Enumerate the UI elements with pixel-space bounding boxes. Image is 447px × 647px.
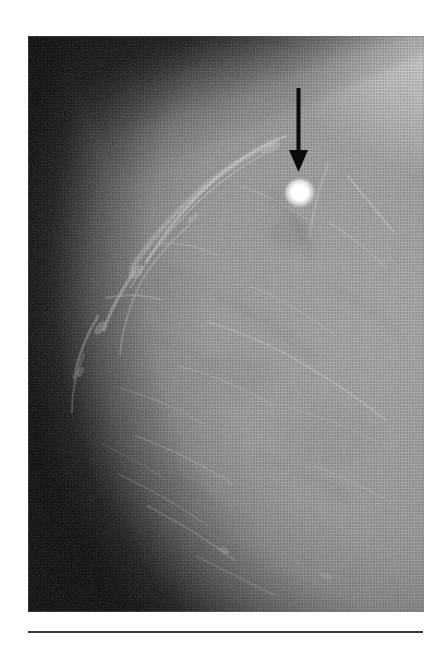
figure-root xyxy=(0,0,447,647)
parenchyma-shadows xyxy=(28,36,424,612)
mammogram-image xyxy=(28,36,424,612)
caption-rule xyxy=(28,631,423,633)
